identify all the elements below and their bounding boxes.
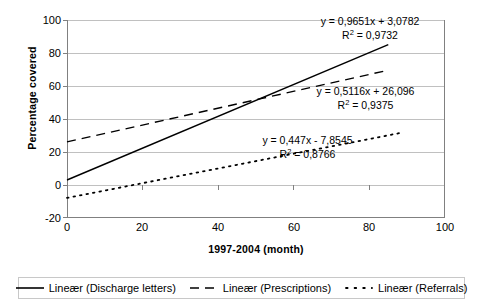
x-tick-label-60: 60	[274, 222, 314, 233]
r-squared-value: = 0,8766	[291, 148, 335, 160]
equation-prescriptions: y = 0,5116x + 26,096 R2 = 0,9375	[288, 84, 443, 112]
x-tick-label-80: 80	[349, 222, 389, 233]
equation-referrals: y = 0,447x - 7,8545 R2 = 0,8766	[230, 133, 385, 161]
plot-area	[67, 20, 445, 218]
legend-swatch-solid-icon	[16, 284, 44, 292]
x-tick-label-40: 40	[198, 222, 238, 233]
legend-label-prescriptions: Lineær (Prescriptions)	[223, 283, 331, 294]
linear-trend-chart: 100 80 60 40 20 0 -20 Percentage covered	[0, 0, 483, 306]
plot-svg	[67, 20, 445, 218]
r-squared-referrals: R2 = 0,8766	[230, 147, 385, 161]
legend-label-discharge-letters: Lineær (Discharge letters)	[49, 283, 176, 294]
legend-swatch-dotted-icon	[345, 284, 373, 292]
x-tick-label-20: 20	[122, 222, 162, 233]
legend-swatch-dashed-icon	[190, 284, 218, 292]
legend-item-prescriptions[interactable]: Lineær (Prescriptions)	[190, 283, 331, 294]
chart-legend: Lineær (Discharge letters) Lineær (Presc…	[18, 277, 465, 299]
y-tick-marks	[63, 21, 67, 218]
x-axis-title: 1997-2004 (month)	[67, 243, 445, 255]
r-squared-value: = 0,9732	[354, 29, 398, 41]
legend-label-referrals: Lineær (Referrals)	[378, 283, 467, 294]
equation-text-referrals: y = 0,447x - 7,8545	[230, 133, 385, 147]
r-squared-value: = 0,9375	[349, 99, 393, 111]
r-squared-prefix: R	[342, 29, 350, 41]
y-tick-label-0: 0	[27, 180, 61, 191]
y-axis-title: Percentage covered	[26, 23, 38, 173]
legend-item-discharge-letters[interactable]: Lineær (Discharge letters)	[16, 283, 176, 294]
equation-text-discharge: y = 0,9651x + 3,0782	[295, 14, 445, 28]
equation-discharge-letters: y = 0,9651x + 3,0782 R2 = 0,9732	[295, 14, 445, 42]
legend-item-referrals[interactable]: Lineær (Referrals)	[345, 283, 467, 294]
x-tick-label-0: 0	[47, 222, 87, 233]
r-squared-prescriptions: R2 = 0,9375	[288, 98, 443, 112]
r-squared-discharge: R2 = 0,9732	[295, 28, 445, 42]
x-tick-label-100: 100	[425, 222, 465, 233]
equation-text-prescriptions: y = 0,5116x + 26,096	[288, 84, 443, 98]
